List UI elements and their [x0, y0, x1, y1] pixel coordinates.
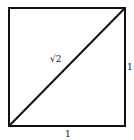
right-side-label: 1 — [127, 62, 133, 72]
bottom-side-label: 1 — [65, 129, 71, 139]
diagonal-line — [9, 8, 125, 126]
square-diagram: √2 1 1 — [0, 0, 134, 140]
diagonal-label: √2 — [50, 54, 61, 64]
